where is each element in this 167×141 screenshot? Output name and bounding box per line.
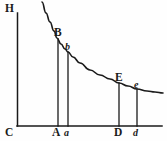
figure-canvas: H C A a B b D d E e (0, 0, 167, 141)
label-B: B (54, 27, 62, 39)
label-C: C (5, 127, 13, 139)
label-b: b (65, 42, 70, 52)
label-E: E (115, 72, 123, 84)
curve-group (42, 2, 163, 93)
label-H: H (5, 3, 14, 15)
diagram-svg (0, 0, 167, 141)
label-d: d (133, 128, 138, 138)
label-a: a (64, 128, 69, 138)
label-e: e (134, 80, 138, 90)
ordinates-group (58, 39, 137, 126)
curve-hyperbola-curve (42, 2, 163, 93)
label-A: A (52, 127, 60, 139)
label-D: D (114, 127, 122, 139)
